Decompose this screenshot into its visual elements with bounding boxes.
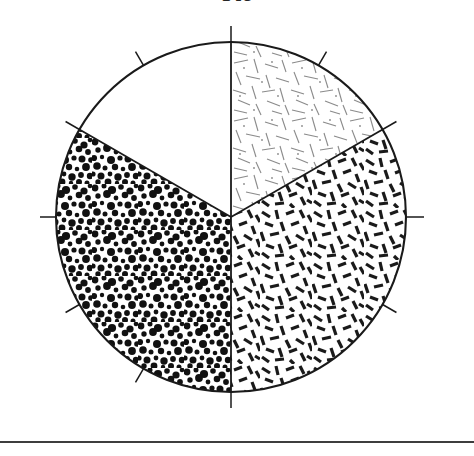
pie-chart [0, 0, 474, 430]
footer-divider [0, 441, 474, 443]
figure-root: Pie [0, 0, 474, 456]
pie-chart-svg [0, 0, 474, 430]
